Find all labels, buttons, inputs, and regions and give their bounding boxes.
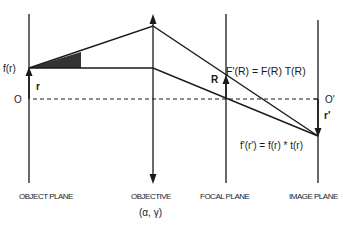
image-vector-label: r' xyxy=(324,111,330,121)
ray-marginal xyxy=(29,26,318,136)
ray-parallel xyxy=(29,68,318,136)
objective-top-arrowhead-icon xyxy=(150,14,157,24)
object-plane-label: OBJECT PLANE xyxy=(19,193,73,201)
image-plane-label: IMAGE PLANE xyxy=(289,193,338,201)
objective-label: OBJECTIVE xyxy=(131,193,171,201)
focal-vector-label: R xyxy=(211,75,218,85)
focal-equation-label: F'(R) = F(R) T(R) xyxy=(226,66,306,77)
object-vector-label: r xyxy=(36,82,40,92)
objective-bottom-arrowhead-icon xyxy=(150,174,157,184)
object-origin-label: O xyxy=(14,95,22,105)
image-equation-label: f'(r') = f(r) * t(r) xyxy=(240,141,303,151)
image-origin-label: O' xyxy=(325,95,335,105)
focal-plane-label: FOCAL PLANE xyxy=(200,193,249,201)
object-function-label: f(r) xyxy=(3,64,16,74)
objective-parameters-label: (α, γ) xyxy=(139,208,162,218)
